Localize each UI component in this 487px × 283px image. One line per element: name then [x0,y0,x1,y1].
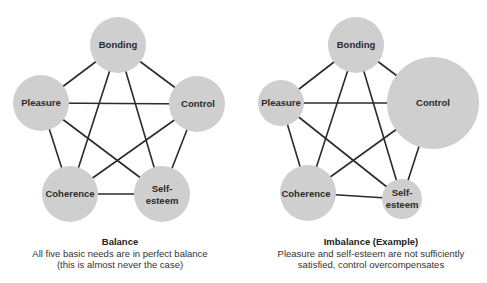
label-self-esteem-1: Self- [392,187,413,198]
label-bonding: Bonding [337,39,376,50]
label-control: Control [181,98,215,109]
label-pleasure: Pleasure [21,97,61,108]
balance-diagram: Bonding Pleasure Control Coherence Self-… [13,17,225,222]
imbalance-caption-title: Imbalance (Example) [266,236,476,248]
balance-caption: Balance All five basic needs are in perf… [20,236,220,271]
balance-caption-title: Balance [20,236,220,248]
label-self-esteem-2: esteem [386,199,419,210]
label-coherence: Coherence [45,188,94,199]
imbalance-diagram: Bonding Pleasure Control Coherence Self-… [258,17,479,221]
label-self-esteem-1: Self- [152,183,173,194]
imbalance-caption-line2: satisfied, control overcompensates [266,259,476,271]
imbalance-caption: Imbalance (Example) Pleasure and self-es… [266,236,476,271]
label-self-esteem-2: esteem [146,195,179,206]
balance-caption-line1: All five basic needs are in perfect bala… [20,248,220,260]
balance-caption-line2: (this is almost never the case) [20,259,220,271]
node-self-esteem [134,166,190,222]
label-coherence: Coherence [281,188,330,199]
imbalance-caption-line1: Pleasure and self-esteem are not suffici… [266,248,476,260]
label-pleasure: Pleasure [261,97,301,108]
label-bonding: Bonding [99,39,138,50]
label-control: Control [416,97,450,108]
